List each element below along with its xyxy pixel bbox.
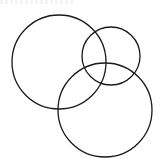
- circle-large-bottom: [58, 63, 152, 157]
- circle-large-left: [12, 15, 106, 109]
- venn-diagram: [0, 0, 160, 159]
- circle-small-right: [82, 27, 140, 85]
